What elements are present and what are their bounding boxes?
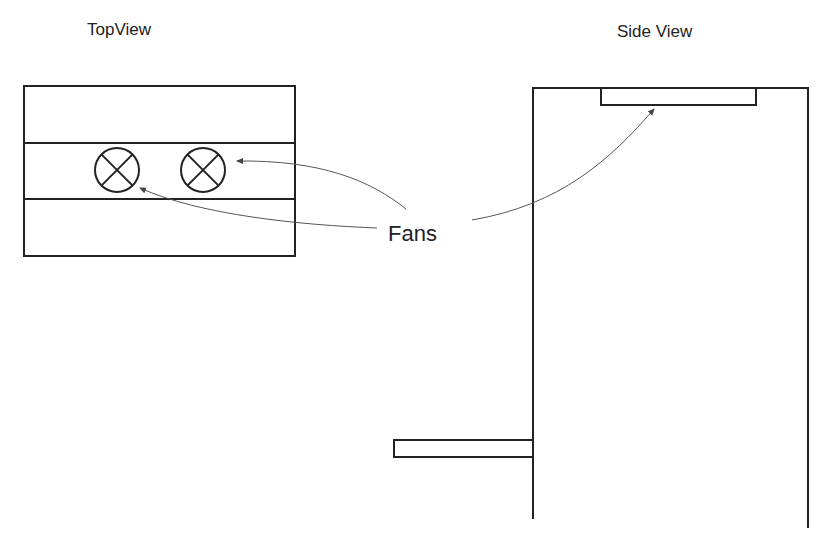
side-view (394, 88, 808, 528)
top-view-fan-2 (181, 148, 225, 192)
top-view-fan-1 (95, 148, 139, 192)
diagram-canvas (0, 0, 822, 540)
top-view-enclosure (24, 86, 295, 256)
callout-arrows (140, 109, 654, 228)
top-view (24, 86, 295, 256)
side-view-ceiling-fan (601, 88, 756, 105)
arrow-to-fan-2 (237, 161, 406, 209)
side-view-enclosure (533, 88, 808, 528)
arrow-to-ceiling-fan (472, 109, 654, 220)
side-view-shelf (394, 440, 533, 457)
arrow-to-fan-1 (140, 188, 377, 228)
